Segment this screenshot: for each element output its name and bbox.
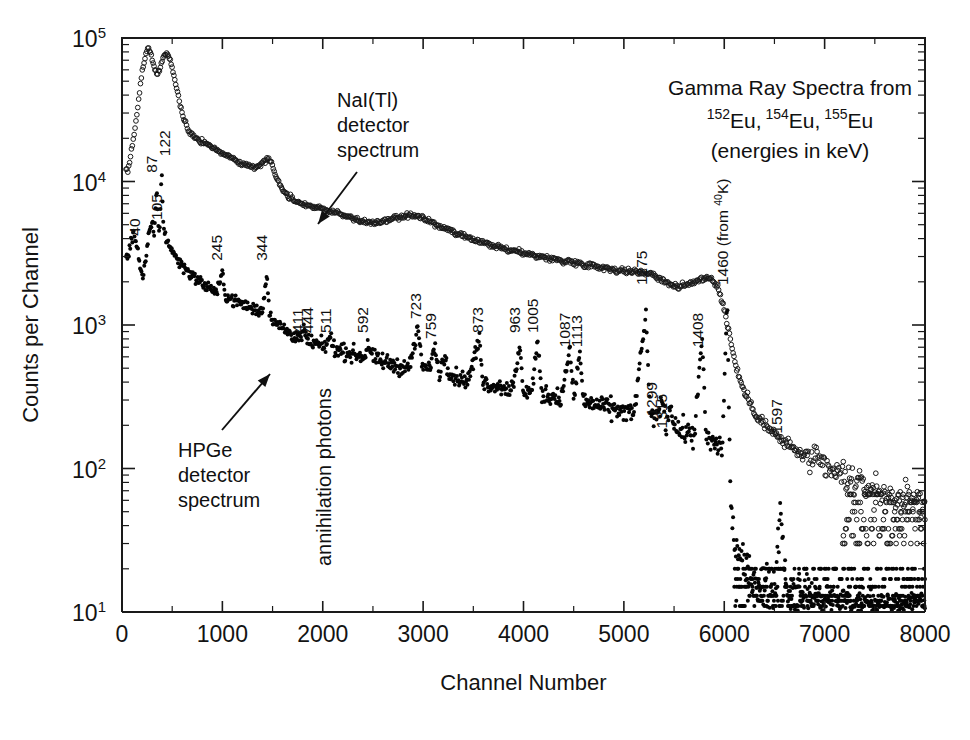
data-point	[837, 604, 841, 608]
data-point	[683, 440, 687, 444]
data-point	[131, 137, 136, 142]
data-point	[646, 363, 650, 367]
data-point	[779, 512, 783, 516]
data-point	[920, 594, 924, 598]
data-point	[826, 577, 830, 581]
data-point	[706, 431, 710, 435]
data-point	[638, 361, 642, 365]
data-point	[871, 541, 876, 546]
data-point	[430, 357, 434, 361]
data-point	[775, 585, 779, 589]
data-point	[748, 594, 752, 598]
annihilation-annotation: annihilation photons	[313, 388, 335, 566]
data-point	[562, 384, 566, 388]
data-point	[751, 589, 755, 593]
data-point	[782, 567, 786, 571]
data-point	[709, 448, 713, 452]
data-point	[818, 585, 822, 589]
data-point	[903, 604, 907, 608]
peak-label: 1113	[568, 315, 585, 347]
data-point	[780, 522, 784, 526]
peak-label: 592	[354, 307, 371, 333]
corner-note-line3: (energies in keV)	[711, 139, 870, 162]
data-point	[845, 577, 849, 581]
data-point	[861, 594, 865, 598]
data-point	[764, 604, 768, 608]
data-point	[381, 366, 385, 370]
data-point	[723, 372, 727, 376]
data-point	[629, 417, 633, 421]
data-point	[509, 388, 513, 392]
data-point	[300, 338, 304, 342]
data-point	[572, 397, 576, 401]
data-point	[914, 604, 918, 608]
data-point	[478, 344, 482, 348]
data-point	[136, 97, 141, 102]
data-point	[882, 585, 886, 589]
data-point	[879, 599, 883, 603]
data-point	[841, 604, 845, 608]
data-point	[446, 366, 450, 370]
data-point	[873, 500, 878, 505]
data-point	[751, 577, 755, 581]
data-point	[143, 56, 148, 61]
peak-label: 759	[422, 313, 439, 339]
data-point	[853, 604, 857, 608]
data-point	[518, 348, 522, 352]
data-point	[376, 351, 380, 355]
data-point	[153, 221, 157, 225]
data-point	[603, 408, 607, 412]
data-point	[842, 567, 846, 571]
data-point	[520, 379, 524, 383]
data-point	[728, 479, 732, 483]
data-point	[414, 333, 418, 337]
peak-label: 1005	[524, 299, 541, 333]
data-point	[583, 393, 587, 397]
data-point	[774, 594, 778, 598]
data-point	[645, 349, 649, 353]
data-point	[703, 410, 707, 414]
data-point	[747, 554, 751, 558]
data-point	[135, 112, 140, 117]
data-point	[790, 594, 794, 598]
data-point	[432, 347, 436, 351]
data-point	[171, 70, 176, 75]
data-point	[132, 132, 137, 137]
corner-note-line1: Gamma Ray Spectra from	[668, 76, 912, 99]
data-point	[159, 182, 163, 186]
data-point	[507, 384, 511, 388]
data-point	[735, 538, 739, 542]
data-point	[879, 567, 883, 571]
data-point	[151, 230, 155, 234]
data-point	[681, 413, 685, 417]
y-tick-label: 101	[72, 598, 106, 626]
x-tick-label: 3000	[398, 621, 449, 647]
data-point	[222, 288, 226, 292]
data-point	[484, 377, 488, 381]
data-point	[157, 229, 161, 233]
data-point	[480, 363, 484, 367]
data-point	[743, 573, 747, 577]
data-point	[743, 567, 747, 571]
data-point	[221, 272, 225, 276]
data-point	[812, 567, 816, 571]
data-point	[726, 358, 730, 362]
data-point	[730, 506, 734, 510]
data-point	[172, 77, 177, 82]
data-point	[395, 357, 399, 361]
data-point	[234, 294, 238, 298]
data-point	[750, 585, 754, 589]
data-point	[813, 585, 817, 589]
data-point	[775, 545, 779, 549]
data-point	[344, 346, 348, 350]
data-point	[348, 355, 352, 359]
data-point	[864, 533, 869, 538]
data-point	[806, 604, 810, 608]
x-axis-title: Channel Number	[440, 670, 606, 695]
data-point	[134, 239, 138, 243]
data-point	[246, 300, 250, 304]
data-point	[896, 577, 900, 581]
data-point	[512, 385, 516, 389]
data-point	[624, 418, 628, 422]
data-point	[519, 356, 523, 360]
